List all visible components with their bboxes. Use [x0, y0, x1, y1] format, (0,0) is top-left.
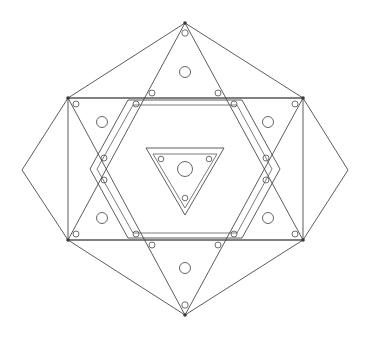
- field-hole-lower-right: [263, 213, 274, 224]
- bolt-hole-apex-top: [182, 30, 188, 36]
- vertex-marker-tr: [301, 96, 305, 100]
- bolt-hole-lower-right-in: [215, 242, 221, 248]
- bolt-hole-apex-bottom: [182, 302, 188, 308]
- vertex-markers-group: [66, 21, 305, 317]
- vertex-marker-bl: [66, 238, 70, 242]
- field-hole-top: [180, 67, 191, 78]
- inner-rectangle-frame: [68, 98, 303, 240]
- bolt-hole-corner-bl: [73, 231, 79, 237]
- bolt-hole-core-right: [206, 156, 212, 162]
- bolt-hole-corner-br: [292, 231, 298, 237]
- field-hole-bottom: [180, 263, 191, 274]
- bolt-hole-edge-bot-right: [231, 231, 237, 237]
- geometric-hexagram-drawing: [0, 0, 371, 340]
- field-hole-lower-left: [97, 213, 108, 224]
- vertex-marker-top: [183, 21, 187, 25]
- field-hole-upper-right: [263, 117, 274, 128]
- bolt-hole-edge-top-left: [133, 101, 139, 107]
- bolt-hole-upper-right-in: [215, 90, 221, 96]
- bolt-hole-corner-tr: [292, 101, 298, 107]
- diagram-canvas: [0, 0, 371, 340]
- bolt-hole-edge-bot-left: [133, 231, 139, 237]
- bolt-hole-corner-tl: [73, 101, 79, 107]
- vertex-marker-br: [301, 238, 305, 242]
- field-hole-upper-left: [97, 117, 108, 128]
- core-triangle-outer: [146, 148, 224, 215]
- core-triangle-inner: [153, 154, 217, 208]
- bolt-hole-lower-left-in: [149, 242, 155, 248]
- bolt-hole-edge-top-right: [231, 101, 237, 107]
- bolt-hole-upper-left-in: [149, 90, 155, 96]
- bolt-hole-core-bottom: [182, 195, 188, 201]
- vertex-marker-bottom: [183, 313, 187, 317]
- bolt-hole-core-left: [158, 156, 164, 162]
- mid-hexagon-outer: [90, 100, 280, 238]
- vertex-marker-tl: [66, 96, 70, 100]
- center-hole: [178, 162, 193, 177]
